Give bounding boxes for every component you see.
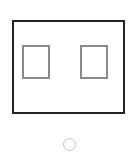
circle-button-icon[interactable]: [63, 138, 76, 151]
left-window-square: [22, 45, 50, 79]
diagram-canvas: [0, 0, 140, 153]
right-window-square: [80, 45, 108, 79]
